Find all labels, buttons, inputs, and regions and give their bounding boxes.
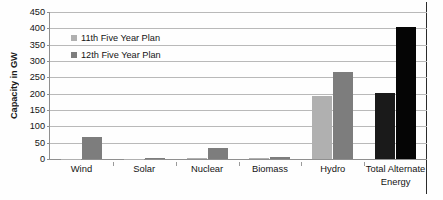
gridline	[50, 159, 427, 160]
y-tick-label: 200	[30, 89, 45, 99]
x-tick-label: Solar	[113, 162, 176, 175]
bar-group	[364, 12, 427, 159]
y-tick-label: 50	[35, 138, 45, 148]
bar-group	[239, 12, 302, 159]
x-tick-mark	[113, 162, 114, 166]
y-tick-label: 300	[30, 56, 45, 66]
x-tick-mark	[239, 162, 240, 166]
bar	[312, 96, 332, 159]
bar	[145, 158, 165, 159]
y-tick-label: 150	[30, 105, 45, 115]
bar-chart: Capacity in GW 4504003503002502001501005…	[0, 0, 443, 200]
bar	[375, 93, 395, 159]
y-tick-label: 400	[30, 23, 45, 33]
x-tick-mark	[364, 162, 365, 166]
legend-swatch-icon	[71, 35, 77, 41]
chart-legend: 11th Five Year Plan 12th Five Year Plan	[71, 31, 191, 65]
bar	[333, 72, 353, 159]
y-tick-label: 450	[30, 7, 45, 17]
legend-swatch-icon	[71, 52, 77, 58]
bar	[270, 157, 290, 159]
bar	[396, 27, 416, 159]
x-axis-labels: WindSolarNuclearBiomassHydroTotal Altern…	[50, 162, 427, 196]
legend-item: 11th Five Year Plan	[71, 31, 191, 45]
legend-item-label: 12th Five Year Plan	[81, 50, 161, 60]
y-tick-label: 250	[30, 72, 45, 82]
legend-item-label: 11th Five Year Plan	[81, 33, 160, 43]
bar	[187, 158, 207, 159]
x-tick-label: Hydro	[301, 162, 364, 175]
bar	[82, 137, 102, 159]
x-tick-label: Biomass	[239, 162, 302, 175]
x-tick-mark	[176, 162, 177, 166]
x-tick-label: Total AlternateEnergy	[364, 162, 427, 188]
bar	[208, 148, 228, 159]
y-tick-label: 350	[30, 40, 45, 50]
y-tick-label: 0	[40, 154, 45, 164]
x-tick-mark	[301, 162, 302, 166]
y-tick-mark	[47, 159, 50, 160]
y-tick-label: 100	[30, 121, 45, 131]
x-tick-label: Wind	[50, 162, 113, 175]
legend-item: 12th Five Year Plan	[71, 48, 191, 62]
y-axis-title: Capacity in GW	[6, 38, 22, 134]
x-tick-label: Nuclear	[176, 162, 239, 175]
bar-group	[301, 12, 364, 159]
bar	[249, 158, 269, 159]
